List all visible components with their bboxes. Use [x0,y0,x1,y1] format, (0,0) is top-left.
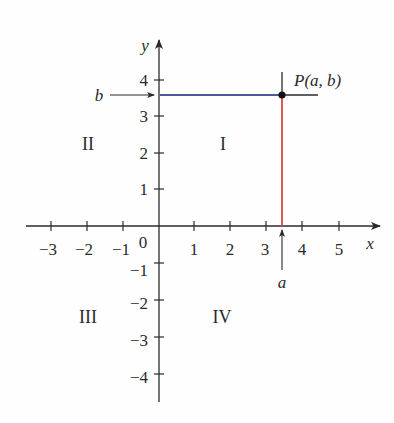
b-label: b [95,86,104,105]
origin-label: 0 [139,233,148,252]
x-tick-label: 1 [190,240,199,259]
x-tick-label: 2 [226,240,235,259]
quadrant-label-i: I [220,134,226,154]
x-tick-label: −2 [75,240,93,259]
y-tick-label: −3 [130,331,148,350]
y-tick-label: −1 [130,261,148,280]
y-tick-label: 4 [140,71,149,90]
a-label: a [278,273,287,292]
coordinate-plane-svg: −3 −2 −1 1 2 3 4 5 0 4 3 2 1 −1 −2 −3 −4… [0,0,394,423]
x-tick-label: 5 [335,240,344,259]
y-tick-label: 2 [140,144,149,163]
y-tick-label: 3 [140,107,149,126]
quadrant-label-iii: III [79,307,97,327]
point-p-label: P(a, b) [293,71,342,90]
point-p-dot [278,91,285,98]
x-tick-label: −1 [112,240,130,259]
y-tick-label: 1 [140,180,149,199]
y-tick-label: −4 [130,368,149,387]
x-tick-label: −3 [39,240,57,259]
quadrant-label-iv: IV [213,307,232,327]
y-tick-label: −2 [130,294,148,313]
y-axis-label: y [139,36,149,55]
x-tick-label: 3 [261,240,270,259]
x-tick-label: 4 [298,240,307,259]
coordinate-plane-figure: −3 −2 −1 1 2 3 4 5 0 4 3 2 1 −1 −2 −3 −4… [0,0,394,423]
x-axis-label: x [365,234,374,253]
quadrant-label-ii: II [82,134,94,154]
